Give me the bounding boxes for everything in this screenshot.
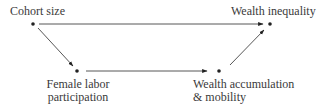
label-wealth-inequality: Wealth inequality <box>231 5 316 18</box>
edge-wealth-accumulation-to-inequality <box>230 30 264 65</box>
label-cohort-size: Cohort size <box>10 5 65 18</box>
node-dot-wealth-accumulation <box>217 69 221 73</box>
label-female-labor-participation: Female labor participation <box>37 78 119 104</box>
node-dot-female-labor <box>75 69 79 73</box>
label-line-2: participation <box>37 91 119 104</box>
node-dot-wealth-inequality <box>268 22 272 26</box>
edge-cohort-to-female-labor <box>38 28 73 66</box>
causal-diagram: Cohort size Wealth inequality Female lab… <box>0 0 329 112</box>
node-dot-cohort-size <box>31 22 35 26</box>
label-line-2: & mobility <box>193 91 294 104</box>
label-wealth-accumulation-mobility: Wealth accumulation & mobility <box>193 78 294 104</box>
